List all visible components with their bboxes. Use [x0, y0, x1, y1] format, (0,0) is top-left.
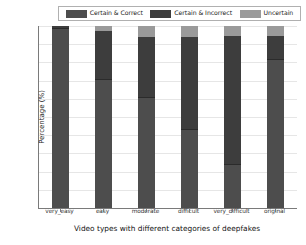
legend-label-certain-incorrect: Certain & Incorrect	[174, 10, 232, 16]
bar-column[interactable]	[168, 26, 211, 208]
bar-segment[interactable]	[95, 31, 112, 79]
legend-entry-uncertain: Uncertain	[240, 10, 294, 18]
x-tick-label: original	[253, 209, 296, 215]
bar-segment[interactable]	[138, 37, 155, 97]
legend-swatch-certain-incorrect	[150, 10, 171, 18]
bar-group	[39, 26, 297, 208]
bar-column[interactable]	[125, 26, 168, 208]
bar-segment[interactable]	[224, 164, 241, 208]
bar-stack[interactable]	[181, 26, 198, 208]
bar-stack[interactable]	[267, 26, 284, 208]
bar-stack[interactable]	[95, 26, 112, 208]
x-axis-ticks: very_easyeasymoderatedifficultvery_diffi…	[38, 209, 296, 220]
x-tick-label: moderate	[124, 209, 167, 215]
bar-segment[interactable]	[267, 26, 284, 36]
bar-stack[interactable]	[138, 26, 155, 208]
x-tick-label: difficult	[167, 209, 210, 215]
x-tick-label: very_difficult	[210, 209, 253, 215]
bar-segment[interactable]	[52, 28, 69, 208]
legend-swatch-uncertain	[240, 10, 261, 18]
bar-column[interactable]	[254, 26, 297, 208]
bar-column[interactable]	[82, 26, 125, 208]
bar-segment[interactable]	[95, 79, 112, 208]
legend-entry-certain-incorrect: Certain & Incorrect	[150, 10, 232, 18]
x-tick-mark	[103, 209, 104, 212]
bar-segment[interactable]	[138, 26, 155, 37]
x-tick-mark	[232, 209, 233, 212]
x-axis-title: Video types with different categories of…	[38, 224, 296, 233]
legend-label-uncertain: Uncertain	[264, 10, 294, 16]
x-tick-mark	[275, 209, 276, 212]
bar-segment[interactable]	[224, 26, 241, 36]
legend-label-certain-correct: Certain & Correct	[90, 10, 143, 16]
bar-stack[interactable]	[224, 26, 241, 208]
bar-segment[interactable]	[181, 26, 198, 37]
bar-column[interactable]	[211, 26, 254, 208]
bar-segment[interactable]	[267, 36, 284, 59]
bar-segment[interactable]	[181, 129, 198, 208]
bar-segment[interactable]	[181, 37, 198, 129]
bar-segment[interactable]	[224, 36, 241, 164]
x-tick-label: easy	[81, 209, 124, 215]
legend-swatch-certain-correct	[66, 10, 87, 18]
bar-segment[interactable]	[138, 97, 155, 208]
legend-entry-certain-correct: Certain & Correct	[66, 10, 143, 18]
y-axis-title: Percentage (%)	[38, 90, 46, 144]
bar-segment[interactable]	[267, 59, 284, 208]
x-tick-mark	[189, 209, 190, 212]
chart-figure: Certain & Correct Certain & Incorrect Un…	[0, 0, 306, 245]
x-tick-label: very_easy	[38, 209, 81, 215]
x-tick-mark	[60, 209, 61, 212]
bar-stack[interactable]	[52, 26, 69, 208]
x-tick-mark	[146, 209, 147, 212]
plot-area: 0102030405060708090100 Percentage (%)	[38, 26, 297, 209]
chart-legend: Certain & Correct Certain & Incorrect Un…	[58, 6, 301, 21]
